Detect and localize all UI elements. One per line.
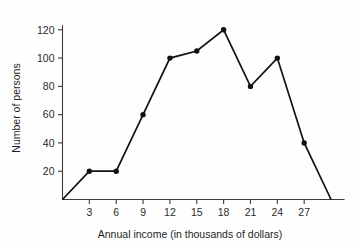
- data-point: [167, 55, 172, 60]
- x-axis-tick-label: 18: [218, 206, 230, 218]
- chart-figure: 20406080100120 369121518212427 Annual in…: [0, 0, 359, 246]
- x-axis-tick-label: 9: [140, 206, 146, 218]
- x-axis-tick-label: 24: [271, 206, 283, 218]
- data-point: [275, 55, 280, 60]
- x-axis-tick-label: 3: [86, 206, 92, 218]
- y-axis-tick-label: 40: [43, 137, 55, 149]
- x-axis-tick-label: 12: [164, 206, 176, 218]
- y-axis-tick-label: 60: [43, 108, 55, 120]
- data-point: [221, 27, 226, 32]
- frequency-polygon-chart: 20406080100120 369121518212427 Annual in…: [0, 0, 359, 246]
- data-point: [87, 169, 92, 174]
- x-axis-tick-label: 6: [113, 206, 119, 218]
- y-axis-tick-label: 100: [37, 52, 55, 64]
- y-axis-tick-label: 80: [43, 80, 55, 92]
- data-point: [140, 112, 145, 117]
- data-point: [114, 169, 119, 174]
- y-axis-tick-label: 120: [37, 24, 55, 36]
- data-point: [194, 48, 199, 53]
- data-point: [301, 140, 306, 145]
- x-axis-tick-label: 21: [245, 206, 257, 218]
- x-axis-tick-label: 15: [191, 206, 203, 218]
- x-axis-tick-label: 27: [298, 206, 310, 218]
- x-axis-title: Annual income (in thousands of dollars): [98, 228, 282, 240]
- data-point: [248, 84, 253, 89]
- y-axis-tick-label: 20: [43, 165, 55, 177]
- y-axis-title: Number of persons: [10, 63, 22, 152]
